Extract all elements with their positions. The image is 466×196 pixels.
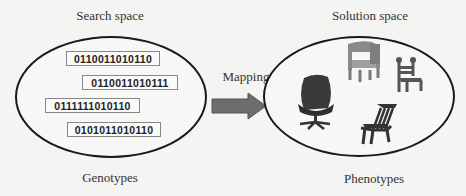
solution-space-title: Solution space bbox=[332, 8, 408, 24]
wooden-chair-icon bbox=[393, 56, 427, 94]
office-chair-icon bbox=[294, 72, 338, 132]
genotype-box-3: 0111111010110 bbox=[45, 98, 140, 113]
phenotypes-caption: Phenotypes bbox=[344, 171, 404, 187]
genotype-box-4: 0101011010110 bbox=[67, 122, 161, 137]
mapping-arrow-icon bbox=[210, 92, 270, 120]
search-space-title: Search space bbox=[76, 8, 144, 24]
genotypes-caption: Genotypes bbox=[82, 170, 138, 186]
armchair-icon bbox=[342, 40, 386, 84]
genotype-box-1: 0110011010110 bbox=[66, 51, 160, 66]
mapping-label: Mapping bbox=[223, 69, 270, 85]
deck-chair-icon bbox=[357, 102, 401, 146]
genotype-box-2: 0110011010111 bbox=[82, 75, 178, 90]
